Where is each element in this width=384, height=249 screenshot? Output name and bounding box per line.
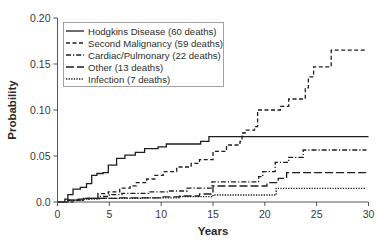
x-tick-label: 10 bbox=[155, 208, 167, 220]
legend: Hodgkins Disease (60 deaths) Second Mali… bbox=[64, 23, 224, 87]
legend-item-hodgkins: Hodgkins Disease (60 deaths) bbox=[66, 26, 217, 37]
x-ticks: 051015202530 bbox=[55, 202, 375, 220]
series-long-dash-line bbox=[58, 173, 367, 202]
legend-label: Second Malignancy (59 deaths) bbox=[88, 38, 223, 49]
y-tick-label: 0.05 bbox=[30, 150, 51, 162]
x-tick-label: 30 bbox=[363, 208, 375, 220]
x-tick-label: 0 bbox=[55, 208, 61, 220]
legend-item-cardiac-pulmonary: Cardiac/Pulmonary (22 deaths) bbox=[66, 50, 221, 61]
y-ticks: 0.00.050.100.150.20 bbox=[30, 12, 57, 208]
x-tick-label: 25 bbox=[311, 208, 323, 220]
y-tick-label: 0.15 bbox=[30, 58, 51, 70]
series-dotted-line bbox=[58, 188, 367, 202]
legend-label: Infection (7 deaths) bbox=[88, 74, 170, 85]
legend-label: Hodgkins Disease (60 deaths) bbox=[88, 26, 217, 37]
y-tick-label: 0.0 bbox=[36, 196, 51, 208]
x-tick-label: 15 bbox=[207, 208, 219, 220]
x-axis-title: Years bbox=[198, 225, 229, 237]
legend-label: Cardiac/Pulmonary (22 deaths) bbox=[88, 50, 221, 61]
legend-item-second-malignancy: Second Malignancy (59 deaths) bbox=[66, 38, 223, 49]
chart: 0.00.050.100.150.20 051015202530 Probabi… bbox=[0, 0, 384, 249]
y-tick-label: 0.20 bbox=[30, 12, 51, 24]
x-tick-label: 5 bbox=[106, 208, 112, 220]
y-tick-label: 0.10 bbox=[30, 104, 51, 116]
x-tick-label: 20 bbox=[259, 208, 271, 220]
legend-label: Other (13 deaths) bbox=[88, 62, 163, 73]
y-axis-title: Probability bbox=[6, 80, 18, 140]
